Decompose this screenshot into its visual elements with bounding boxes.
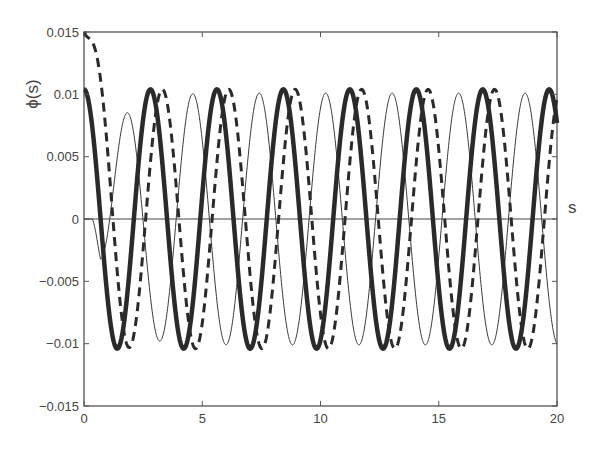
y-tick-label: 0.015 [46,25,79,40]
y-tick-label: 0 [72,212,79,227]
x-tick-label: 20 [550,411,564,426]
y-axis-label: ϕ(s) [23,79,42,108]
x-tick-label: 0 [80,411,87,426]
y-tick-label: 0.01 [54,87,79,102]
y-tick-label: −0.015 [39,399,79,414]
x-tick-label: 15 [432,411,446,426]
x-tick-label: 5 [199,411,206,426]
x-tick-label: 10 [313,411,327,426]
x-axis-label: s [568,198,577,217]
line-chart: −0.015−0.01−0.00500.0050.010.015 0510152… [0,0,607,452]
y-tick-label: −0.01 [46,336,79,351]
y-tick-label: −0.005 [39,274,79,289]
y-tick-label: 0.005 [46,149,79,164]
